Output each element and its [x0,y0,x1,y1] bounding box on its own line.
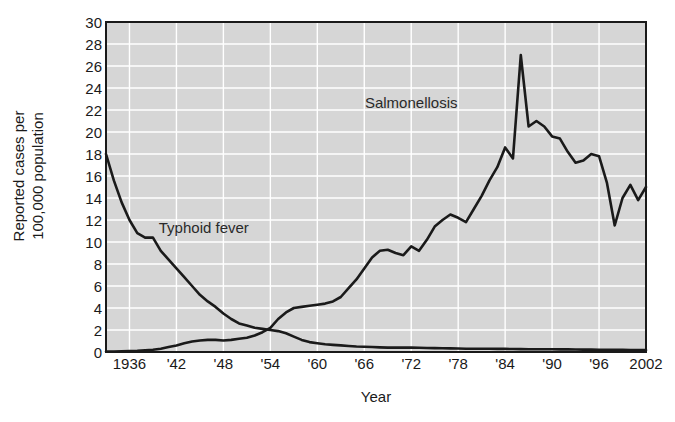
x-tick-label: '84 [495,355,515,372]
plot-background [106,22,646,352]
y-tick-label: 14 [62,190,102,207]
y-axis-label: Reported cases per 100,000 population [0,0,56,352]
x-tick-label: '42 [167,355,187,372]
chart-figure: Reported cases per 100,000 population 02… [0,0,675,422]
x-tick-label: '72 [401,355,421,372]
y-tick-label: 6 [62,278,102,295]
y-tick-label: 4 [62,300,102,317]
x-tick-label: '54 [261,355,281,372]
series-annotation-salmonellosis: Salmonellosis [365,94,458,111]
x-tick-label: 1936 [113,355,146,372]
x-tick-label: '66 [354,355,374,372]
y-tick-label: 20 [62,124,102,141]
y-tick-label: 26 [62,58,102,75]
x-tick-label: '90 [542,355,562,372]
y-tick-label: 30 [62,14,102,31]
x-tick-label: '96 [589,355,609,372]
series-annotation-typhoid: Typhoid fever [159,218,249,235]
x-tick-label: '60 [308,355,328,372]
y-tick-label: 12 [62,212,102,229]
y-tick-label: 28 [62,36,102,53]
y-tick-label: 22 [62,102,102,119]
y-tick-label: 8 [62,256,102,273]
x-tick-label: '48 [214,355,234,372]
y-tick-label: 2 [62,322,102,339]
y-tick-label: 10 [62,234,102,251]
y-tick-label: 16 [62,168,102,185]
y-tick-label: 24 [62,80,102,97]
x-axis-label: Year [106,388,646,405]
y-axis-label-line2: 100,000 population [28,111,47,242]
x-tick-label: 2002 [629,355,662,372]
x-axis-ticks: 1936'42'48'54'60'66'72'78'84'90'962002 [0,355,675,381]
y-tick-label: 18 [62,146,102,163]
x-tick-label: '78 [448,355,468,372]
y-axis-label-line1: Reported cases per [10,111,27,242]
